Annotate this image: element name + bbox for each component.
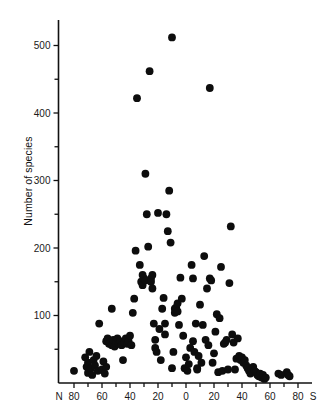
data-point <box>136 261 144 269</box>
y-tick-label: 400 <box>34 108 51 119</box>
y-tick-label: 500 <box>34 40 51 51</box>
data-point <box>102 363 110 371</box>
data-point <box>149 271 157 279</box>
data-point <box>207 277 215 285</box>
x-tick-label: 0 <box>183 391 189 402</box>
data-point <box>189 337 197 345</box>
data-point <box>195 352 203 360</box>
data-point <box>216 314 224 322</box>
data-point <box>93 352 101 360</box>
data-point <box>127 341 135 349</box>
data-point <box>149 285 157 293</box>
y-tick-label: 100 <box>34 310 51 321</box>
data-point <box>196 301 204 309</box>
x-tick-label: 40 <box>236 391 248 402</box>
data-point <box>212 328 220 336</box>
data-point <box>156 325 164 333</box>
data-point <box>161 320 169 328</box>
x-tick-label: 20 <box>208 391 220 402</box>
x-axis-cap-north: N <box>55 391 62 402</box>
data-point <box>286 372 294 380</box>
data-point <box>174 308 182 316</box>
data-point <box>182 353 190 361</box>
data-point <box>132 247 140 255</box>
data-point <box>198 359 206 367</box>
data-point <box>217 263 225 271</box>
data-point <box>126 332 134 340</box>
data-point <box>203 285 211 293</box>
data-point <box>205 341 213 349</box>
data-point <box>178 295 186 303</box>
data-point <box>177 274 185 282</box>
data-point <box>143 210 151 218</box>
data-point <box>158 305 166 313</box>
data-point <box>188 261 196 269</box>
x-tick-label: 80 <box>68 391 80 402</box>
data-point <box>142 170 150 178</box>
data-point <box>184 367 192 375</box>
data-point <box>210 349 218 357</box>
data-point <box>160 294 168 302</box>
data-point <box>164 227 172 235</box>
data-point <box>153 348 161 356</box>
x-tick-group: 80604020020406080 <box>68 383 304 402</box>
data-points-group <box>70 34 293 383</box>
data-point <box>70 367 78 375</box>
data-point <box>231 366 239 374</box>
x-tick-label: 60 <box>264 391 276 402</box>
data-point <box>119 356 127 364</box>
data-point <box>193 366 201 374</box>
data-point <box>234 335 242 343</box>
data-point <box>175 321 183 329</box>
data-point <box>86 348 94 356</box>
data-point <box>185 360 193 368</box>
data-point <box>226 279 234 287</box>
data-point <box>163 210 171 218</box>
y-tick-group: 100200300400500 <box>34 40 59 349</box>
data-point <box>168 34 176 42</box>
data-point <box>206 84 214 92</box>
y-tick-label: 200 <box>34 243 51 254</box>
data-point <box>224 366 232 374</box>
data-point <box>147 278 155 286</box>
data-point <box>179 332 187 340</box>
data-point <box>209 359 217 367</box>
data-point <box>157 356 165 364</box>
data-point <box>144 243 152 251</box>
data-point <box>150 320 158 328</box>
data-point <box>101 370 109 378</box>
x-axis-cap-south: S <box>310 391 317 402</box>
data-point <box>223 336 231 344</box>
data-point <box>129 309 137 317</box>
x-tick-label: 20 <box>152 391 164 402</box>
plot-area: 100200300400500 80604020020406080 NS <box>0 0 331 415</box>
data-point <box>130 295 138 303</box>
x-tick-label: 40 <box>124 391 136 402</box>
data-point <box>170 348 178 356</box>
data-point <box>161 331 169 339</box>
data-point <box>108 305 116 313</box>
data-point <box>192 320 200 328</box>
data-point <box>262 374 270 382</box>
data-point <box>168 364 176 372</box>
data-point <box>189 274 197 282</box>
data-point <box>95 320 103 328</box>
axes-group <box>59 20 313 383</box>
y-tick-label: 300 <box>34 175 51 186</box>
x-tick-label: 60 <box>96 391 108 402</box>
data-point <box>227 223 235 231</box>
data-point <box>200 252 208 260</box>
data-point <box>154 209 162 217</box>
data-point <box>146 67 154 75</box>
scatter-plot-figure: Number of species 100200300400500 806040… <box>0 0 331 415</box>
data-point <box>165 187 173 195</box>
x-tick-label: 80 <box>292 391 304 402</box>
data-point <box>133 94 141 102</box>
data-point <box>199 321 207 329</box>
data-point <box>151 336 159 344</box>
data-point <box>167 239 175 247</box>
